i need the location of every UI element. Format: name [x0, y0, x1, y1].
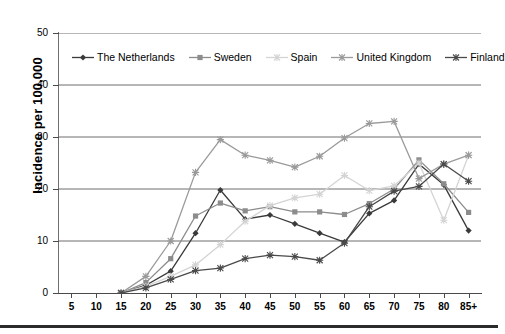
data-point [266, 157, 273, 164]
y-axis-label: 30 [8, 132, 48, 142]
data-point [217, 241, 224, 248]
data-point [317, 230, 323, 236]
legend-item-finland: Finland [445, 51, 504, 63]
data-point [218, 200, 223, 205]
x-axis-tick [469, 293, 470, 298]
data-point [341, 134, 348, 141]
x-axis-tick [146, 293, 147, 298]
page-bottom-rule [0, 325, 498, 328]
data-point [465, 228, 471, 234]
y-axis-label: 0 [8, 288, 48, 298]
data-point [242, 218, 249, 225]
x-axis-tick [171, 293, 172, 298]
x-axis-tick [419, 293, 420, 298]
data-point [366, 203, 373, 210]
series-united-kingdom [117, 118, 472, 293]
x-axis-tick [245, 293, 246, 298]
data-point [440, 217, 447, 224]
data-point [168, 256, 173, 261]
legend-item-the-netherlands: The Netherlands [72, 51, 175, 63]
data-point [291, 164, 298, 171]
data-point [167, 276, 174, 283]
data-point [415, 159, 422, 166]
data-point [415, 183, 422, 190]
x-axis-tick [344, 293, 345, 298]
x-axis-tick [270, 293, 271, 298]
x-axis-tick [369, 293, 370, 298]
data-point [316, 153, 323, 160]
y-axis-label: 40 [8, 80, 48, 90]
legend-marker-cross-icon [266, 53, 288, 62]
data-point [80, 54, 86, 60]
data-point [142, 273, 149, 280]
data-point [440, 160, 447, 167]
chart-legend: The NetherlandsSwedenSpainUnited Kingdom… [72, 51, 505, 63]
data-point [193, 213, 198, 218]
data-point [316, 257, 323, 264]
legend-item-united-kingdom: United Kingdom [331, 51, 431, 63]
y-axis-label: 50 [8, 28, 48, 38]
data-point [197, 54, 202, 59]
data-point [266, 251, 273, 258]
legend-label: United Kingdom [356, 51, 431, 63]
data-point [366, 120, 373, 127]
legend-item-sweden: Sweden [189, 51, 252, 63]
data-point [243, 208, 248, 213]
legend-marker-cross-icon [445, 53, 467, 62]
legend-marker-diamond-icon [72, 53, 94, 62]
y-axis-label: 10 [8, 236, 48, 246]
data-point [342, 212, 347, 217]
legend-marker-cross-icon [331, 53, 353, 62]
x-axis-tick [444, 293, 445, 298]
data-point [217, 136, 224, 143]
data-point [341, 172, 348, 179]
series-canvas [59, 33, 481, 293]
data-point [465, 178, 472, 185]
data-point [465, 152, 472, 159]
data-point [117, 289, 124, 293]
data-point [466, 210, 471, 215]
data-point [192, 169, 199, 176]
x-axis-label: 85+ [452, 301, 486, 312]
data-point [192, 267, 199, 274]
x-axis-tick [196, 293, 197, 298]
data-point [242, 152, 249, 159]
data-point [453, 53, 460, 60]
data-point [217, 264, 224, 271]
data-point [366, 187, 373, 194]
x-axis-tick [220, 293, 221, 298]
data-point [292, 209, 297, 214]
legend-item-spain: Spain [266, 51, 318, 63]
x-axis-tick [295, 293, 296, 298]
data-point [266, 202, 273, 209]
data-point [242, 255, 249, 262]
data-point [316, 191, 323, 198]
x-axis-tick [320, 293, 321, 298]
data-point [142, 284, 149, 291]
y-axis-tick [53, 293, 59, 294]
x-axis-tick [121, 293, 122, 298]
data-point [292, 221, 298, 227]
data-point [291, 253, 298, 260]
data-point [167, 237, 174, 244]
data-point [291, 194, 298, 201]
legend-label: Sweden [214, 51, 252, 63]
legend-label: Spain [291, 51, 318, 63]
plot-area [59, 33, 481, 293]
data-point [441, 181, 446, 186]
x-axis-tick [394, 293, 395, 298]
legend-label: Finland [470, 51, 504, 63]
data-point [341, 239, 348, 246]
data-point [391, 187, 398, 194]
data-point [339, 53, 346, 60]
legend-marker-square-icon [189, 53, 211, 62]
data-point [391, 118, 398, 125]
data-point [273, 53, 280, 60]
legend-label: The Netherlands [97, 51, 175, 63]
data-point [267, 212, 273, 218]
y-axis-label: 20 [8, 184, 48, 194]
x-axis-tick [71, 293, 72, 298]
data-point [317, 209, 322, 214]
data-point [415, 175, 422, 182]
